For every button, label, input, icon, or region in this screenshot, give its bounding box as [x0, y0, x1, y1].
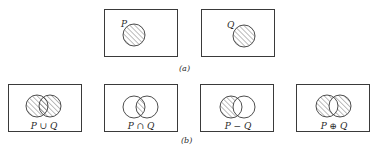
- panel-difference: P − Q: [201, 85, 274, 132]
- panel-a-p: P: [105, 10, 178, 57]
- caption-a: (a): [179, 64, 190, 73]
- intersection-label: P ∩ Q: [127, 121, 155, 131]
- panel-symmetric-difference: P ⊕ Q: [297, 85, 370, 132]
- set-p-label: P: [120, 19, 128, 29]
- symmetric-difference-label: P ⊕ Q: [320, 121, 348, 131]
- caption-b: (b): [181, 136, 192, 145]
- venn-diagram-figure: P Q (a) P ∪ Q P ∩ Q P − Q: [0, 0, 378, 146]
- set-q-label: Q: [227, 20, 235, 30]
- union-label: P ∪ Q: [30, 121, 58, 131]
- panel-union: P ∪ Q: [9, 85, 82, 132]
- panel-intersection: P ∩ Q: [105, 85, 178, 132]
- difference-label: P − Q: [224, 121, 252, 131]
- panel-a-q: Q: [202, 10, 275, 57]
